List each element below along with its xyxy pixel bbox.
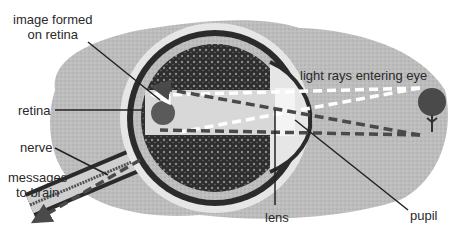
label-image-formed: image formed on retina	[13, 12, 92, 42]
eyeball	[120, 23, 310, 213]
label-lens: lens	[265, 210, 289, 225]
label-pupil: pupil	[410, 208, 437, 223]
label-nerve: nerve	[20, 140, 53, 155]
label-retina: retina	[18, 103, 51, 118]
eye-diagram: image formed on retina retina nerve mess…	[0, 0, 453, 231]
label-light-rays: light rays entering eye	[300, 68, 427, 83]
label-messages-to-brain: messages to brain	[8, 170, 67, 200]
